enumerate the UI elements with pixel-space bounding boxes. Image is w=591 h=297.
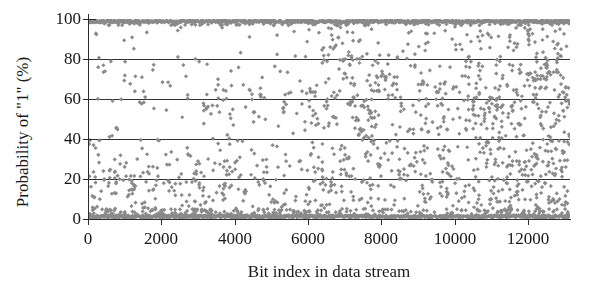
x-tick-8000: [381, 219, 382, 225]
y-tick-label-100: 100: [56, 9, 82, 29]
y-tick-outer-60: [83, 99, 88, 100]
scatter-points-layer: [88, 19, 570, 219]
y-tick-0: [89, 219, 96, 220]
x-tick-label-6000: 6000: [291, 229, 325, 249]
y-tick-label-80: 80: [64, 49, 81, 69]
x-tick-0: [88, 219, 89, 225]
x-tick-label-10000: 10000: [434, 229, 477, 249]
scatter-plot-figure: Probability of "1" (%) 020406080100 0200…: [0, 0, 591, 297]
y-tick-60: [89, 99, 96, 100]
x-axis-spine: [84, 219, 571, 220]
x-tick-2000: [161, 219, 162, 225]
y-tick-outer-40: [83, 139, 88, 140]
x-tick-12000: [528, 219, 529, 225]
x-tick-label-0: 0: [84, 229, 93, 249]
y-axis-title: Probability of "1" (%): [10, 17, 36, 247]
y-tick-outer-20: [83, 179, 88, 180]
y-tick-label-40: 40: [64, 129, 81, 149]
scatter-canvas: [88, 19, 570, 219]
y-tick-label-0: 0: [73, 209, 82, 229]
x-tick-4000: [235, 219, 236, 225]
x-tick-label-8000: 8000: [364, 229, 398, 249]
y-tick-label-20: 20: [64, 169, 81, 189]
y-tick-20: [89, 179, 96, 180]
x-tick-label-4000: 4000: [218, 229, 252, 249]
y-tick-outer-80: [83, 59, 88, 60]
plot-area: 020406080100 020004000600080001000012000: [88, 19, 570, 219]
x-tick-label-2000: 2000: [144, 229, 178, 249]
y-tick-80: [89, 59, 96, 60]
y-tick-outer-100: [83, 19, 88, 20]
x-tick-label-12000: 12000: [507, 229, 550, 249]
x-tick-6000: [308, 219, 309, 225]
y-tick-40: [89, 139, 96, 140]
y-tick-label-60: 60: [64, 89, 81, 109]
x-tick-10000: [455, 219, 456, 225]
x-axis-title: Bit index in data stream: [88, 262, 570, 282]
y-axis-spine: [88, 14, 89, 220]
y-tick-100: [89, 19, 96, 20]
